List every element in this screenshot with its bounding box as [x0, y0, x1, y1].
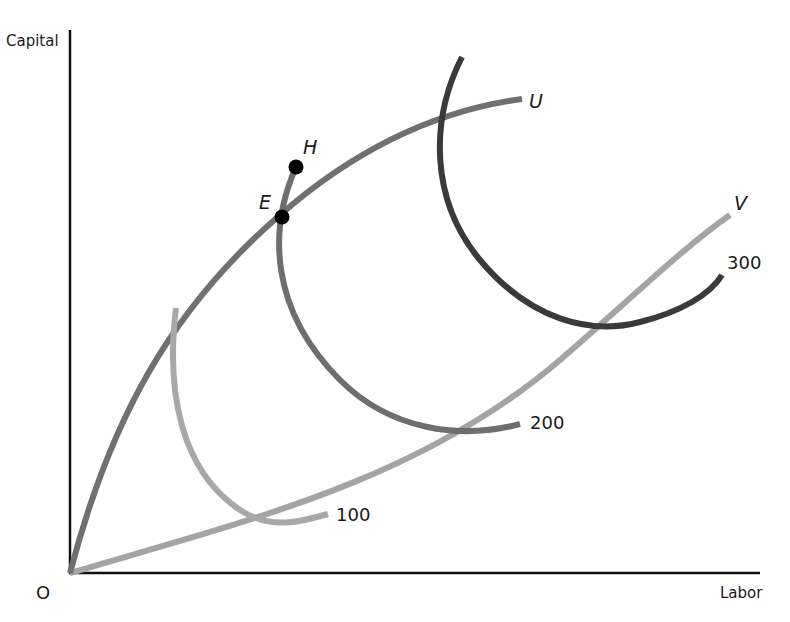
isoquant-200 — [279, 167, 520, 431]
isoquant-200-label: 200 — [530, 412, 564, 433]
production-diagram: Capital Labor O U V 300 200 100 H E — [0, 0, 790, 622]
expansion-path-v — [70, 215, 730, 573]
point-e-label: E — [259, 191, 271, 213]
point-h-label: H — [303, 136, 317, 158]
curve-u-label: U — [529, 90, 543, 112]
isoquant-300-label: 300 — [727, 252, 761, 273]
origin-label: O — [36, 582, 50, 603]
isoquant-100-label: 100 — [336, 504, 370, 525]
point-h — [289, 160, 304, 175]
curve-v-label: V — [734, 192, 749, 214]
point-e — [275, 210, 290, 225]
isoquant-300 — [440, 57, 722, 326]
x-axis-label: Labor — [720, 584, 763, 602]
y-axis-label: Capital — [6, 32, 59, 50]
